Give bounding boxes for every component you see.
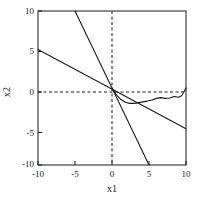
y-tick-label-minus-5: -5	[10, 129, 34, 138]
chart-canvas	[0, 0, 200, 200]
x-tick-label-0: 0	[110, 170, 115, 179]
y-tick-label-5: 5	[10, 47, 34, 56]
y-axis-title: x2	[2, 87, 12, 97]
x-tick-label-minus-5: -5	[71, 170, 79, 179]
x-tick-label-5: 5	[147, 170, 152, 179]
figure-container: 10 5 0 -5 -10 -10 -5 0 5 10 x1 x2	[0, 0, 200, 200]
x-tick-label-10: 10	[182, 170, 191, 179]
y-tick-label-0: 0	[10, 88, 34, 97]
y-tick-label-minus-10: -10	[10, 160, 34, 169]
x-axis-title: x1	[107, 184, 117, 194]
x-tick-label-minus-10: -10	[32, 170, 44, 179]
y-tick-label-10: 10	[10, 7, 34, 16]
